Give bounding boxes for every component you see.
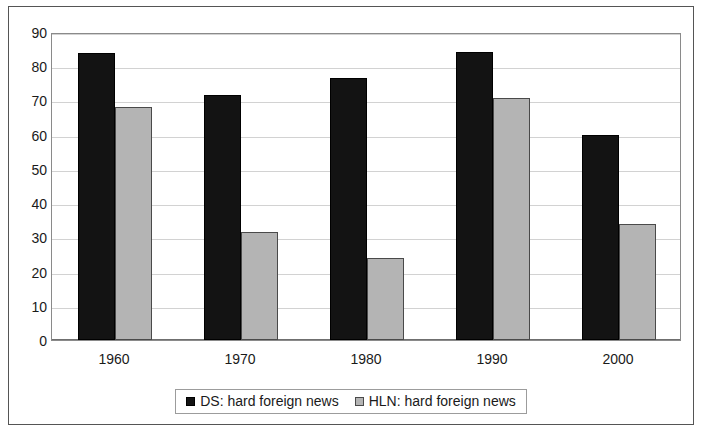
y-axis-tick-label: 70 [13, 94, 47, 108]
bar-1980-hln [367, 258, 404, 340]
x-axis: 19601970198019902000 [51, 347, 681, 373]
x-axis-tick-label: 1960 [98, 351, 129, 367]
y-axis-tick-label: 30 [13, 231, 47, 245]
x-axis-tick-label: 1970 [224, 351, 255, 367]
legend-swatch-icon [186, 397, 195, 406]
legend-label: DS: hard foreign news [200, 393, 339, 409]
gridline-80 [52, 68, 680, 69]
chart-legend: DS: hard foreign newsHLN: hard foreign n… [9, 389, 693, 414]
legend-label: HLN: hard foreign news [369, 393, 516, 409]
chart-frame: 0102030405060708090 19601970198019902000… [8, 6, 694, 425]
legend-swatch-icon [355, 397, 364, 406]
y-axis: 0102030405060708090 [9, 33, 47, 341]
bar-1990-hln [493, 98, 530, 340]
bar-1970-ds [204, 95, 241, 340]
bar-1960-ds [78, 53, 115, 340]
bar-1960-hln [115, 107, 152, 340]
gridline-90 [52, 34, 680, 35]
y-axis-tick-label: 0 [13, 334, 47, 348]
y-axis-tick-label: 80 [13, 60, 47, 74]
bar-1980-ds [330, 78, 367, 340]
bar-2000-ds [582, 135, 619, 340]
y-axis-tick-label: 50 [13, 163, 47, 177]
bar-2000-hln [619, 224, 656, 340]
bar-1970-hln [241, 232, 278, 340]
legend-entry-hln: HLN: hard foreign news [355, 393, 516, 409]
legend-entry-ds: DS: hard foreign news [186, 393, 339, 409]
y-axis-tick-label: 60 [13, 129, 47, 143]
x-axis-tick-label: 1990 [476, 351, 507, 367]
bar-1990-ds [456, 52, 493, 340]
y-axis-tick-label: 90 [13, 26, 47, 40]
x-axis-tick-label: 1980 [350, 351, 381, 367]
y-axis-tick-label: 20 [13, 266, 47, 280]
legend-box: DS: hard foreign newsHLN: hard foreign n… [175, 389, 527, 414]
y-axis-tick-label: 10 [13, 300, 47, 314]
x-axis-tick-label: 2000 [602, 351, 633, 367]
plot-area-wrapper [51, 33, 681, 341]
y-axis-tick-label: 40 [13, 197, 47, 211]
plot-area [51, 33, 681, 341]
